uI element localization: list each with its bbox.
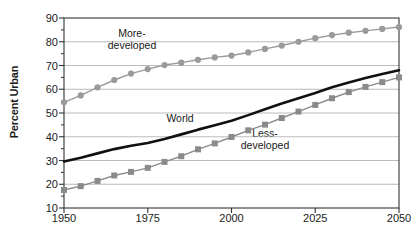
plot-canvas	[0, 0, 419, 233]
series-2-marker-1965	[111, 172, 117, 178]
series-2-marker-2010	[262, 122, 268, 128]
series-0-marker-1970	[128, 70, 134, 76]
series-0-marker-2050	[396, 24, 402, 30]
series-0-marker-2005	[245, 49, 251, 55]
series-2-marker-2000	[229, 134, 235, 140]
series-0-marker-1980	[161, 62, 167, 68]
series-0-marker-2040	[362, 28, 368, 34]
series-0-marker-1965	[111, 77, 117, 83]
series-0-marker-1995	[212, 54, 218, 60]
series-2-marker-1950	[61, 187, 67, 193]
series-0-marker-2020	[295, 39, 301, 45]
series-0-marker-1985	[178, 60, 184, 66]
series-0-marker-1975	[145, 66, 151, 72]
series-2-marker-1975	[145, 165, 151, 171]
series-2-marker-1985	[178, 153, 184, 159]
series-2-marker-2015	[279, 115, 285, 121]
series-0-marker-1950	[61, 99, 67, 105]
series-2-marker-1955	[78, 183, 84, 189]
series-2-marker-2050	[396, 74, 402, 80]
series-0-marker-2030	[329, 32, 335, 38]
series-2-marker-2030	[329, 95, 335, 101]
series-2-marker-2025	[312, 102, 318, 108]
series-2-marker-1980	[162, 159, 168, 165]
urbanization-line-chart: Percent Urban 90 80 70 60 50 40 30 20 10…	[0, 0, 419, 233]
series-2-marker-2035	[346, 89, 352, 95]
series-0-marker-2015	[279, 42, 285, 48]
series-0-marker-2000	[228, 52, 234, 58]
series-2-marker-1960	[95, 178, 101, 184]
series-0-marker-2035	[346, 30, 352, 36]
series-2-marker-1970	[128, 169, 134, 175]
series-0-marker-1960	[94, 84, 100, 90]
series-2-marker-2045	[379, 79, 385, 85]
series-0-marker-1955	[78, 92, 84, 98]
series-2-marker-1995	[212, 140, 218, 146]
series-0-marker-1990	[195, 57, 201, 63]
series-0-marker-2045	[379, 26, 385, 32]
series-line-1	[64, 70, 399, 161]
series-2-marker-2005	[245, 127, 251, 133]
series-0-marker-2025	[312, 35, 318, 41]
series-2-marker-2020	[296, 109, 302, 115]
series-2-marker-2040	[363, 84, 369, 90]
series-2-marker-1990	[195, 146, 201, 152]
series-0-marker-2010	[262, 46, 268, 52]
